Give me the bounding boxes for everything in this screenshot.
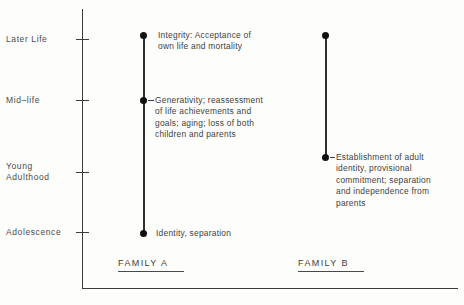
vertical-axis [82,9,83,288]
family-b-node-young-adulthood [322,154,329,161]
family-b-caption-rule [298,271,364,272]
tick-adolescence [76,232,89,233]
axis-label-mid-life-wrap: Mid–life [6,95,70,106]
axis-label-adolescence-wrap: Adolescence [6,227,70,238]
life-cycle-timeline-figure: Later Life Mid–life Young Adulthood Adol… [0,0,464,305]
family-a-timeline-line [143,35,145,233]
family-a-leader-mid-life [148,100,154,101]
family-b-leader-young-adulthood [330,157,335,158]
axis-label-later-life-wrap: Later Life [6,34,70,45]
family-a-caption-rule [118,271,184,272]
axis-label-young-adulthood: Young Adulthood [6,161,70,183]
family-a-node-adolescence [140,230,147,237]
family-a-note-identity: Identity, separation [156,228,306,239]
family-b-node-later-life [322,32,329,39]
tick-mid-life [76,100,89,101]
axis-label-adolescence: Adolescence [6,227,70,238]
axis-label-mid-life: Mid–life [6,95,70,106]
family-a-node-later-life [140,32,147,39]
family-a-caption: FAMILY A [118,258,168,268]
tick-later-life [76,39,89,40]
family-b-note-establishment: Establishment of adult identity, provisi… [336,152,461,209]
tick-young-adulthood [76,172,89,173]
axis-label-later-life: Later Life [6,34,70,45]
axis-label-young-adulthood-wrap: Young Adulthood [6,161,70,183]
family-a-note-integrity: Integrity: Acceptance of own life and mo… [158,30,298,53]
family-b-timeline-line [325,35,327,157]
family-b-caption: FAMILY B [298,258,349,268]
horizontal-axis [82,288,458,289]
family-a-note-generativity: Generativity; reassessment of life achie… [155,95,300,141]
family-a-node-mid-life [140,97,147,104]
